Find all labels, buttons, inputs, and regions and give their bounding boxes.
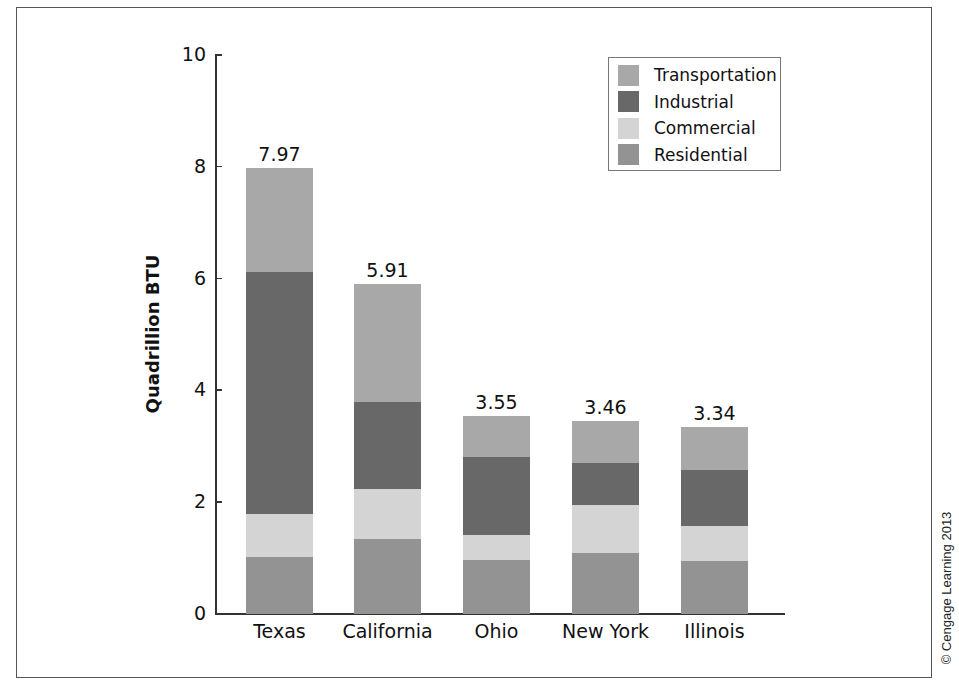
y-axis-label: Quadrillion BTU: [142, 255, 163, 414]
y-tick-label: 10: [166, 44, 206, 64]
bar-total-label: 7.97: [230, 144, 330, 164]
segment-transportation: [354, 284, 421, 403]
legend-swatch: [618, 118, 639, 139]
bar-total-label: 5.91: [338, 260, 438, 280]
stacked-bar-chart: Quadrillion BTU 0246810 7.97Texas5.91Cal…: [0, 0, 959, 682]
segment-commercial: [354, 489, 421, 538]
segment-transportation: [246, 168, 313, 271]
segment-industrial: [681, 470, 748, 526]
segment-industrial: [246, 272, 313, 514]
y-tick-label: 4: [166, 379, 206, 399]
y-tick-label: 8: [166, 156, 206, 176]
legend-label: Residential: [654, 145, 748, 165]
segment-commercial: [246, 514, 313, 557]
legend-swatch: [618, 91, 639, 112]
y-tick: [215, 501, 222, 503]
x-category-label: Illinois: [645, 620, 785, 642]
bar-new-york: [572, 421, 639, 614]
legend-item-transportation: Transportation: [618, 63, 777, 87]
legend: TransportationIndustrialCommercialReside…: [608, 57, 781, 171]
legend-label: Commercial: [654, 118, 756, 138]
y-tick: [215, 278, 222, 280]
segment-transportation: [572, 421, 639, 463]
bar-total-label: 3.34: [665, 403, 765, 423]
bar-california: [354, 284, 421, 614]
segment-residential: [246, 557, 313, 614]
bar-total-label: 3.46: [556, 397, 656, 417]
y-axis: [215, 55, 217, 614]
bar-texas: [246, 168, 313, 614]
y-tick: [215, 613, 222, 615]
legend-swatch: [618, 144, 639, 165]
segment-residential: [354, 539, 421, 614]
y-tick-label: 6: [166, 268, 206, 288]
y-tick: [215, 54, 222, 56]
legend-label: Industrial: [654, 92, 734, 112]
segment-industrial: [463, 457, 530, 535]
y-tick-label: 2: [166, 491, 206, 511]
segment-commercial: [463, 535, 530, 561]
segment-residential: [463, 560, 530, 614]
segment-industrial: [354, 402, 421, 489]
legend-item-residential: Residential: [618, 143, 748, 167]
legend-item-commercial: Commercial: [618, 116, 756, 140]
segment-commercial: [572, 505, 639, 553]
segment-industrial: [572, 463, 639, 505]
legend-item-industrial: Industrial: [618, 90, 734, 114]
segment-residential: [572, 553, 639, 614]
y-tick: [215, 166, 222, 168]
segment-residential: [681, 561, 748, 614]
bar-illinois: [681, 427, 748, 614]
bar-total-label: 3.55: [447, 392, 547, 412]
segment-commercial: [681, 526, 748, 562]
legend-label: Transportation: [654, 65, 777, 85]
bar-ohio: [463, 416, 530, 614]
copyright-notice: © Cengage Learning 2013: [939, 512, 954, 665]
y-tick: [215, 389, 222, 391]
segment-transportation: [463, 416, 530, 457]
y-tick-label: 0: [166, 603, 206, 623]
segment-transportation: [681, 427, 748, 469]
legend-swatch: [618, 65, 639, 86]
